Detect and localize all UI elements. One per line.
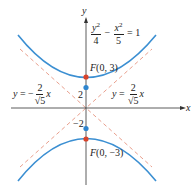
y-axis-arrow-icon <box>84 17 88 23</box>
focus-lower-label: F(0, −3) <box>90 148 123 158</box>
asymptote-right-label: y = 2√5x <box>112 83 144 106</box>
asymptote-left-label: y = −2√5x <box>13 83 51 106</box>
tick-label-2: 2 <box>78 90 83 100</box>
x-axis-label: x <box>186 103 190 113</box>
focus-upper-label: FF(0, 3)(0, 3) <box>90 63 118 73</box>
tick-label-neg2: −2 <box>73 119 84 129</box>
focus-upper <box>83 74 88 79</box>
vertex-lower <box>83 126 88 131</box>
vertex-upper <box>83 85 88 90</box>
hyperbola-equation: y24 − x25 = 1 <box>90 22 140 46</box>
y-axis-label: y <box>82 6 86 16</box>
hyperbola-lower-branch <box>18 139 156 182</box>
focus-lower <box>83 136 88 141</box>
